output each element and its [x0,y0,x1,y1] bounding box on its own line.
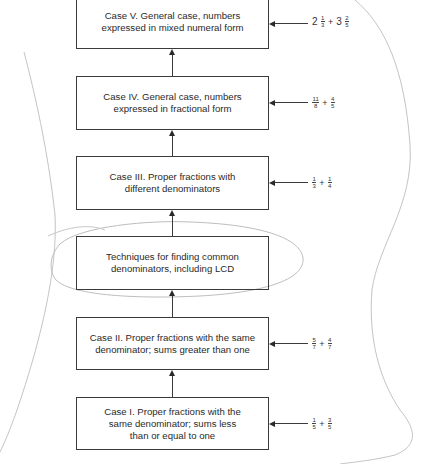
left-margin-curve [0,52,55,452]
left-arrow-icon [269,100,275,106]
left-arrow-icon [269,341,275,347]
up-arrow-icon [169,370,175,376]
example-arrow-case1 [275,423,308,424]
case-i-box: Case I. Proper fractions with the same d… [76,397,269,450]
left-arrow-icon [269,421,275,427]
example-case3: 13 + 14 [312,176,332,189]
case-iv-box: Case IV. General case, numbers expressed… [76,76,269,130]
edge-lcd-to-case3 [172,216,173,236]
case-ii-label: Case II. Proper fractions with the same … [90,332,255,356]
example-arrow-case2 [275,343,308,344]
lcd-techniques-label: Techniques for finding common denominato… [106,251,239,275]
up-arrow-icon [169,130,175,136]
right-margin-curve [340,0,413,464]
example-case5: 213 + 325 [312,15,349,28]
case-i-label: Case I. Proper fractions with the same d… [104,406,241,442]
example-arrow-case3 [275,182,308,183]
left-arrow-icon [269,21,275,27]
edge-case3-to-case4 [172,136,173,156]
lcd-techniques-box: Techniques for finding common denominato… [76,236,269,290]
example-case1: 15 + 35 [312,417,332,430]
up-arrow-icon [169,210,175,216]
case-iii-label: Case III. Proper fractions with differen… [110,171,236,195]
example-arrow-case4 [275,102,308,103]
up-arrow-icon [169,290,175,296]
case-iii-box: Case III. Proper fractions with differen… [76,156,269,210]
edge-case2-to-lcd [172,296,173,317]
case-ii-box: Case II. Proper fractions with the same … [76,317,269,370]
left-arrow-icon [269,180,275,186]
edge-case4-to-case5 [172,55,173,76]
case-v-box: Case V. General case, numbers expressed … [76,0,269,49]
up-arrow-icon [169,49,175,55]
lcd-highlight-tail [48,227,105,236]
example-case2: 57 + 47 [312,337,332,350]
example-arrow-case5 [275,23,308,24]
edge-case1-to-case2 [172,376,173,397]
example-case4: 118 + 45 [312,96,335,109]
pencil-annotations [0,0,423,464]
case-iv-label: Case IV. General case, numbers expressed… [103,91,241,115]
case-v-label: Case V. General case, numbers expressed … [102,10,244,34]
